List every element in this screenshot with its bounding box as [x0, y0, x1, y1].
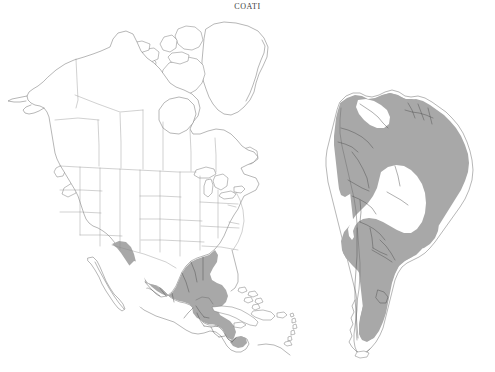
lesser-antilles-islands	[288, 313, 297, 341]
aleutian-chain	[8, 96, 27, 102]
south-america-north-tip	[258, 344, 290, 355]
panel-north-america	[8, 22, 297, 355]
range-map-figure: COATI	[0, 0, 495, 372]
ellesmere-island	[175, 26, 203, 50]
tierra-del-fuego	[355, 351, 369, 358]
bahamas-islands	[238, 287, 263, 310]
puerto-rico-island	[277, 312, 287, 318]
panel-south-america	[326, 90, 473, 358]
jamaica-island	[234, 322, 246, 328]
axel-heiberg-island	[160, 35, 177, 52]
trinidad-island	[284, 341, 292, 346]
florida-peninsula-detail	[231, 250, 238, 291]
maps-canvas	[0, 0, 495, 372]
